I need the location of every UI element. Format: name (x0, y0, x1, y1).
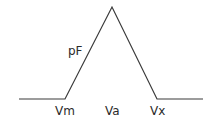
label-vx: Vx (150, 104, 165, 118)
membership-function-diagram: pF Vm Va Vx (0, 0, 215, 127)
label-vm: Vm (55, 104, 75, 118)
curve-label-pf: pF (68, 44, 83, 58)
label-va: Va (105, 104, 120, 118)
function-curve (19, 7, 203, 99)
